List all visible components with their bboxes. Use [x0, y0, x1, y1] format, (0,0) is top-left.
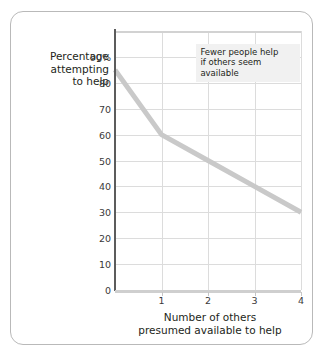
chart-annotation-line-2: if others seem [200, 57, 296, 68]
x-axis-tick-label: 2 [196, 295, 220, 306]
x-axis-tick-label: 1 [150, 295, 174, 306]
gridline-vertical [301, 31, 302, 290]
y-axis-spine [114, 29, 116, 291]
data-series-line [115, 70, 301, 212]
x-axis-title: Number of others presumed available to h… [107, 311, 313, 336]
y-axis-tick-label: 0 [77, 285, 111, 296]
y-axis-tick-label: 80 [77, 77, 111, 88]
y-axis-tick-label: 60 [77, 129, 111, 140]
plot-inner: Fewer people help if others seem availab… [115, 31, 301, 290]
y-axis-tick-label: 30 [77, 207, 111, 218]
y-axis-tick-label: 90% [77, 51, 111, 62]
x-axis-tick-label: 4 [289, 295, 313, 306]
y-axis-tick-labels: 0102030405060708090% [73, 31, 111, 290]
chart-annotation-line-3: available [200, 68, 296, 79]
x-axis-title-line-2: presumed available to help [107, 324, 313, 337]
chart-annotation: Fewer people help if others seem availab… [196, 44, 300, 83]
y-axis-tick-label: 50 [77, 155, 111, 166]
y-axis-tick-label: 10 [77, 259, 111, 270]
chart-annotation-line-1: Fewer people help [200, 47, 296, 58]
x-axis-title-line-1: Number of others [107, 311, 313, 324]
figure-card: Percentage attempting to help 0102030405… [10, 11, 313, 345]
y-axis-tick-label: 40 [77, 181, 111, 192]
y-axis-tick-label: 70 [77, 103, 111, 114]
y-axis-tick-label: 20 [77, 233, 111, 244]
x-axis-tick-labels: 1234 [115, 295, 301, 309]
plot-area: Fewer people help if others seem availab… [115, 31, 301, 290]
x-axis-tick-label: 3 [243, 295, 267, 306]
